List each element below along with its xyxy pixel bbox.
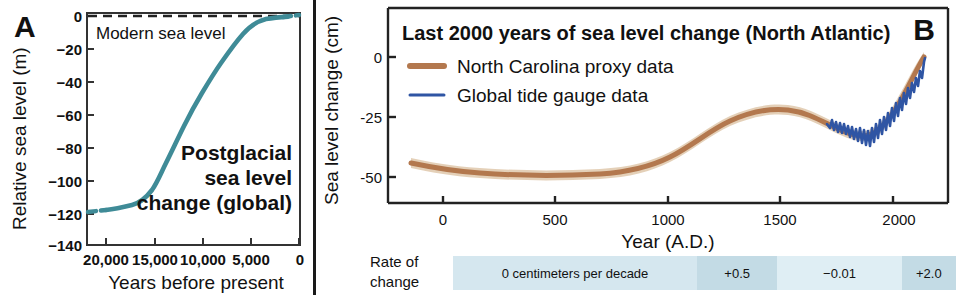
panel-a-ytick-140: −140	[48, 237, 82, 254]
rate-segment-1: +0.5	[697, 256, 777, 290]
panel-b-ytick-50: -50	[360, 169, 382, 186]
legend-label-north-carolina-proxy: North Carolina proxy data	[457, 56, 674, 77]
rate-of-change-label-line2: change	[370, 272, 448, 292]
panel-a-curve-dashed-right	[283, 15, 299, 17]
panel-b-xtick-500: 500	[542, 211, 567, 228]
panel-a-letter: A	[14, 10, 36, 43]
panel-b-svg: Sea level change (cm) B Last 2000 years …	[310, 0, 956, 252]
panel-a-ytick-100: −100	[48, 173, 82, 190]
panel-a-curve-dashed-left	[88, 210, 106, 212]
panel-a-xtick-0: 0	[296, 251, 304, 268]
panel-a-ytick-120: −120	[48, 206, 82, 223]
rate-of-change-label: Rate of change	[370, 252, 448, 292]
rate-of-change-row: Rate of change 0 centimeters per decade …	[310, 252, 956, 295]
legend-label-global-tide-gauge: Global tide gauge data	[457, 85, 649, 106]
panel-b-xtick-0: 0	[439, 211, 447, 228]
panel-b-x-axis-label: Year (A.D.)	[621, 231, 714, 252]
panel-b-xtick-1000: 1000	[651, 211, 684, 228]
sea-level-figure: A Relative sea level (m) 0 −20 −40 −60 −…	[0, 0, 956, 295]
panel-b-xtick-1500: 1500	[763, 211, 796, 228]
panel-a-ytick-40: −40	[57, 74, 82, 91]
panel-a-x-axis-label: Years before present	[108, 272, 284, 293]
panel-a-ytick-80: −80	[57, 140, 82, 157]
panel-a-xtick-5000: 5,000	[232, 251, 270, 268]
modern-sea-level-annotation: Modern sea level	[96, 24, 225, 43]
panel-a-xtick-15000: 15,000	[132, 251, 178, 268]
rate-segment-3: +2.0	[902, 256, 956, 290]
panel-a-svg: A Relative sea level (m) 0 −20 −40 −60 −…	[0, 0, 308, 295]
panel-b-ytick-0: 0	[374, 49, 382, 66]
panel-a-postglacial-chart: A Relative sea level (m) 0 −20 −40 −60 −…	[0, 0, 308, 295]
panel-a-ytick-60: −60	[57, 107, 82, 124]
panel-a-xtick-10000: 10,000	[180, 251, 226, 268]
panel-a-title-line2: sea level	[204, 166, 292, 189]
panel-b-letter: B	[913, 13, 935, 46]
panel-b-title: Last 2000 years of sea level change (Nor…	[402, 22, 890, 44]
panel-b-last-2000-years-chart: Sea level change (cm) B Last 2000 years …	[310, 0, 956, 295]
panel-a-ytick-0: 0	[74, 8, 82, 25]
panel-a-title-line1: Postglacial	[181, 141, 292, 164]
panel-b-xtick-2000: 2000	[882, 211, 915, 228]
rate-of-change-label-line1: Rate of	[370, 252, 448, 272]
panel-a-xtick-20000: 20,000	[83, 251, 129, 268]
rate-of-change-bar: 0 centimeters per decade +0.5 −0.01 +2.0	[453, 256, 956, 290]
panel-a-y-axis-label: Relative sea level (m)	[9, 47, 30, 230]
rate-segment-0: 0 centimeters per decade	[453, 256, 697, 290]
panel-a-ytick-20: −20	[57, 41, 82, 58]
rate-segment-2: −0.01	[777, 256, 901, 290]
panel-a-title-line3: change (global)	[137, 191, 292, 214]
panel-b-ytick-25: -25	[360, 109, 382, 126]
panel-b-y-axis-label: Sea level change (cm)	[321, 16, 342, 205]
